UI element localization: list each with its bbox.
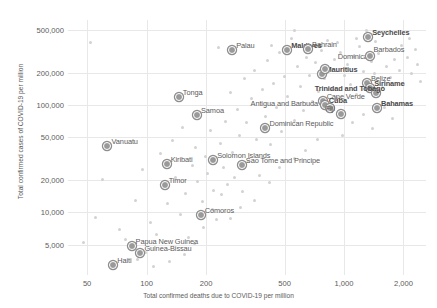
data-point-label: Dominican Republic <box>269 120 333 127</box>
data-point <box>302 109 305 112</box>
data-point <box>159 152 162 155</box>
data-point <box>229 217 232 220</box>
data-point <box>314 61 317 64</box>
data-point-label: Samoa <box>201 107 224 114</box>
data-point <box>184 192 187 195</box>
data-point-highlighted[interactable] <box>321 65 329 73</box>
data-point <box>155 233 158 236</box>
data-point <box>181 126 184 129</box>
y-tick-label: 10,000 <box>0 208 64 217</box>
data-point <box>278 51 281 54</box>
data-point <box>206 172 209 175</box>
data-point <box>269 143 272 146</box>
data-point-highlighted[interactable] <box>209 156 217 164</box>
data-point-highlighted[interactable] <box>128 242 136 250</box>
y-axis-title: Total confirmed cases of COVID-19 per mi… <box>17 7 24 257</box>
data-point-highlighted[interactable] <box>228 46 236 54</box>
data-point-highlighted[interactable] <box>304 45 312 53</box>
data-point-highlighted[interactable] <box>337 110 345 118</box>
data-point <box>393 58 396 61</box>
y-tick-label: 5,000 <box>0 240 64 249</box>
data-point <box>171 139 174 142</box>
data-point-label: Palau <box>236 42 254 49</box>
data-point <box>224 120 227 123</box>
data-point <box>351 121 354 124</box>
data-point <box>253 69 256 72</box>
data-point <box>222 166 225 169</box>
data-point <box>408 37 411 40</box>
data-point-label: Comoros <box>205 207 234 214</box>
data-point-highlighted[interactable] <box>136 249 144 257</box>
data-point-highlighted[interactable] <box>238 161 246 169</box>
data-point-highlighted[interactable] <box>109 261 117 269</box>
data-point-label: Guinea-Bissau <box>144 245 191 252</box>
data-point-label: Bahrain <box>312 41 337 48</box>
data-point <box>362 70 365 73</box>
data-point-highlighted[interactable] <box>261 124 269 132</box>
data-point <box>290 37 293 40</box>
data-point <box>201 200 204 203</box>
x-tick-label: 200 <box>200 279 213 288</box>
data-point <box>286 95 289 98</box>
data-point <box>136 258 139 261</box>
data-point <box>243 77 246 80</box>
x-tick-label: 500 <box>278 279 291 288</box>
data-point <box>333 58 336 61</box>
data-point-highlighted[interactable] <box>373 104 381 112</box>
x-tick-label: 1,000 <box>335 279 354 288</box>
data-point <box>296 65 299 68</box>
data-point <box>261 88 264 91</box>
data-point-highlighted[interactable] <box>163 160 171 168</box>
data-point-highlighted[interactable] <box>103 142 111 150</box>
data-point-highlighted[interactable] <box>283 46 291 54</box>
data-point-label: Timor <box>169 177 187 184</box>
data-point-highlighted[interactable] <box>175 93 183 101</box>
data-point <box>239 206 242 209</box>
data-point <box>183 253 186 256</box>
data-point-highlighted[interactable] <box>161 181 169 189</box>
data-point <box>258 174 261 177</box>
data-point-label: Dominica <box>338 53 368 60</box>
data-point <box>89 41 92 44</box>
data-point <box>226 183 229 186</box>
data-point <box>278 166 281 169</box>
data-point <box>268 181 271 184</box>
data-point <box>220 193 223 196</box>
gridline-vertical <box>87 20 88 275</box>
x-tick-label: 2,000 <box>394 279 413 288</box>
data-point <box>343 74 346 77</box>
y-tick-label: 20,000 <box>0 175 64 184</box>
data-point <box>233 176 236 179</box>
data-point <box>219 142 222 145</box>
data-point <box>391 117 394 120</box>
data-point-label: Seychelles <box>372 29 409 36</box>
data-point-label: Cuba <box>329 97 347 104</box>
gridline-horizontal <box>68 245 426 246</box>
x-tick-label: 50 <box>83 279 91 288</box>
data-point <box>134 199 137 202</box>
data-point <box>179 213 182 216</box>
data-point-label: Sao Tome and Principe <box>246 157 320 164</box>
data-point-label: Barbados <box>374 46 405 53</box>
y-tick-label: 50,000 <box>0 133 64 142</box>
data-point <box>141 168 144 171</box>
data-point-label: Bahamas <box>381 100 413 107</box>
data-point-highlighted[interactable] <box>193 111 201 119</box>
y-tick-label: 200,000 <box>0 68 64 77</box>
data-point <box>410 72 413 75</box>
data-point <box>166 202 169 205</box>
data-point-highlighted[interactable] <box>197 211 205 219</box>
data-point <box>374 40 377 43</box>
data-point <box>266 59 269 62</box>
data-point-highlighted[interactable] <box>364 33 372 41</box>
data-point <box>416 63 419 66</box>
data-point-label: Haiti <box>117 257 131 264</box>
data-point <box>255 138 258 141</box>
data-point <box>323 77 326 80</box>
data-point <box>217 46 220 49</box>
gridline-vertical <box>206 20 207 275</box>
data-point-highlighted[interactable] <box>366 52 374 60</box>
data-point <box>316 138 319 141</box>
data-point-label: Mauritius <box>326 66 358 73</box>
data-point-label: Vanuatu <box>112 138 138 145</box>
